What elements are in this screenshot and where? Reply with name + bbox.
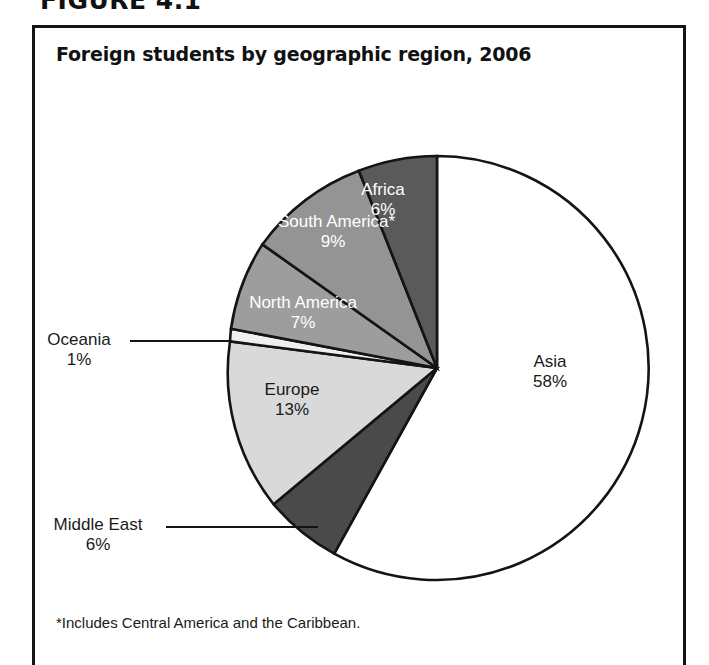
pie-label-north-america-value: 7% — [233, 313, 373, 333]
pie-label-middle-east-name: Middle East — [54, 515, 143, 534]
pie-label-oceania-name: Oceania — [47, 330, 110, 349]
pie-label-south-america-value: 9% — [278, 232, 388, 252]
pie-label-europe-value: 13% — [242, 400, 342, 420]
pie-label-asia-value: 58% — [510, 372, 590, 392]
pie-label-europe: Europe 13% — [242, 380, 342, 420]
pie-label-asia: Asia 58% — [510, 352, 590, 392]
pie-label-oceania: Oceania 1% — [32, 330, 126, 370]
pie-label-middle-east-value: 6% — [34, 535, 162, 555]
pie-label-asia-name: Asia — [533, 352, 566, 371]
pie-label-south-america: South America* 9% — [278, 212, 388, 252]
chart-footnote: *Includes Central America and the Caribb… — [56, 614, 360, 631]
pie-label-middle-east: Middle East 6% — [34, 515, 162, 555]
pie-label-north-america: North America 7% — [233, 293, 373, 333]
pie-label-south-america-name: South America* — [278, 212, 395, 231]
pie-label-oceania-value: 1% — [32, 350, 126, 370]
pie-label-europe-name: Europe — [265, 380, 320, 399]
pie-label-north-america-name: North America — [249, 293, 357, 312]
pie-label-africa-name: Africa — [361, 180, 404, 199]
